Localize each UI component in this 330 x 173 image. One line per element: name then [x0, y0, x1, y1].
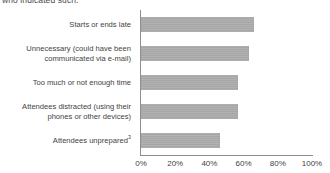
chart-title: who indicated such:: [2, 0, 79, 5]
x-axis-tick-labels: 0%20%40%60%80%100%: [0, 159, 330, 171]
bar-row: Attendees unprepared3: [0, 126, 330, 155]
bar-category-label: Too much or not enough time: [0, 68, 136, 97]
bar-track: [141, 126, 312, 155]
bar-category-label-line: Attendees unprepared3: [53, 136, 131, 146]
x-axis-tick-label: 100%: [302, 159, 322, 168]
x-axis-tick-label: 20%: [167, 159, 183, 168]
bar-row: Unnecessary (could have beencommunicated…: [0, 39, 330, 68]
bar: [141, 75, 238, 90]
x-axis-line: [140, 155, 313, 156]
x-axis-tick-label: 80%: [270, 159, 286, 168]
bar: [141, 104, 238, 119]
bar: [141, 17, 254, 32]
bar-category-label-line: Unnecessary (could have been: [26, 44, 131, 54]
bar-category-label: Unnecessary (could have beencommunicated…: [0, 39, 136, 68]
bar-category-label: Attendees unprepared3: [0, 126, 136, 155]
bar-category-label-line: Starts or ends late: [69, 20, 131, 30]
footnote-marker: 3: [128, 134, 131, 140]
bar-category-label: Attendees distracted (using theirphones …: [0, 97, 136, 126]
bar-category-label-line: communicated via e-mail): [44, 54, 131, 64]
bar-category-label: Starts or ends late: [0, 10, 136, 39]
bar-track: [141, 97, 312, 126]
bar: [141, 46, 249, 61]
bar-chart-plot-area: Starts or ends lateUnnecessary (could ha…: [0, 10, 330, 155]
x-axis-tick-label: 60%: [236, 159, 252, 168]
bar-track: [141, 68, 312, 97]
bar-category-label-line: Too much or not enough time: [33, 78, 131, 88]
bar-category-label-line: phones or other devices): [47, 112, 131, 122]
x-axis-tick-label: 40%: [201, 159, 217, 168]
bar-track: [141, 10, 312, 39]
y-axis-line: [140, 10, 141, 155]
bar-track: [141, 39, 312, 68]
x-axis-tick-label: 0%: [135, 159, 147, 168]
bar-row: Too much or not enough time: [0, 68, 330, 97]
bar-row: Attendees distracted (using theirphones …: [0, 97, 330, 126]
bar-category-label-line: Attendees distracted (using their: [22, 102, 131, 112]
bar-row: Starts or ends late: [0, 10, 330, 39]
bar: [141, 133, 220, 148]
